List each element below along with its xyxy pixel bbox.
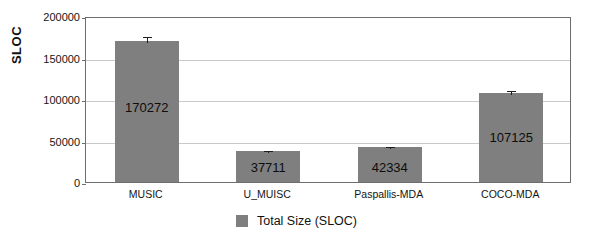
plot-area: 1702723771142334107125 (85, 17, 571, 183)
y-axis-tick-label: 200000 (24, 11, 80, 23)
error-bar-cap (386, 147, 395, 148)
bar-value-label: 37711 (236, 160, 300, 175)
chart-legend: Total Size (SLOC) (0, 214, 593, 228)
y-axis-tick-mark (82, 143, 86, 144)
x-axis-tick-label: Paspallis-MDA (354, 188, 423, 200)
y-axis-tick-mark (82, 101, 86, 102)
y-axis-tick-mark (82, 184, 86, 185)
bar-value-label: 107125 (479, 130, 543, 145)
bar-value-label: 42334 (358, 160, 422, 175)
legend-label: Total Size (SLOC) (257, 214, 357, 228)
x-axis-tick-label: U_MUISC (244, 188, 291, 200)
legend-swatch-icon (236, 215, 248, 227)
y-axis-tick-mark (82, 60, 86, 61)
y-axis-tick-label: 0 (24, 177, 80, 189)
y-axis-tick-label: 100000 (24, 94, 80, 106)
y-axis-tick-label: 150000 (24, 53, 80, 65)
bar-value-label: 170272 (115, 100, 179, 115)
bar: 107125 (479, 93, 543, 182)
bar-chart: SLOC 050000100000150000200000 1702723771… (0, 0, 593, 247)
error-bar-cap (507, 91, 516, 92)
y-axis-tick-labels: 050000100000150000200000 (22, 0, 80, 247)
x-axis-tick-label: COCO-MDA (481, 188, 539, 200)
error-bar-cap (264, 151, 273, 152)
bar: 42334 (358, 147, 422, 182)
y-axis-tick-mark (82, 18, 86, 19)
bar: 37711 (236, 151, 300, 182)
error-bar-cap (143, 37, 152, 38)
bar: 170272 (115, 41, 179, 182)
y-axis-tick-label: 50000 (24, 136, 80, 148)
x-axis-tick-label: MUSIC (129, 188, 163, 200)
